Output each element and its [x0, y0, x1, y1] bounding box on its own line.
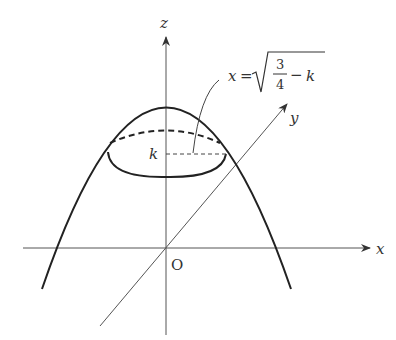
cross-section-back-dashed: [110, 131, 220, 144]
formula-lhs: x: [228, 67, 237, 85]
cross-section-front: [108, 152, 226, 177]
annotation-leader-line: [193, 80, 219, 153]
diagram-canvas: z x y O k x = 3 4 − k: [0, 0, 396, 340]
z-axis-label: z: [159, 14, 168, 32]
formula-equals: =: [240, 67, 253, 85]
origin-label: O: [171, 256, 183, 274]
y-axis-label: y: [289, 109, 299, 127]
fraction-denominator: 4: [276, 77, 284, 92]
level-k-label: k: [149, 145, 158, 163]
y-axis: [100, 104, 287, 326]
annotation-formula: x = 3 4 − k: [228, 52, 325, 92]
formula-k: k: [306, 67, 315, 85]
x-axis-label: x: [376, 240, 385, 258]
formula-minus: −: [290, 66, 303, 84]
fraction-numerator: 3: [276, 57, 284, 72]
